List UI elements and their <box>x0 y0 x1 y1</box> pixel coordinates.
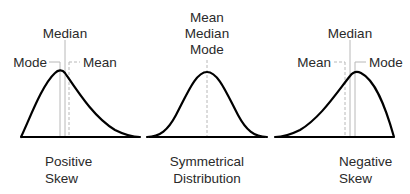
positive-skew-curve <box>21 70 140 137</box>
median-label: Median <box>185 26 229 41</box>
negative-skew-panel: Median Mean Mode Negative Skew <box>275 26 403 186</box>
mean-label: Mean <box>83 55 117 70</box>
skewness-diagram: Median Mode Mean Positive Skew Mean Medi… <box>0 0 410 194</box>
caption-line2: Skew <box>339 171 372 186</box>
caption-line2: Skew <box>45 171 78 186</box>
median-label: Median <box>328 26 372 41</box>
caption-line1: Positive <box>45 154 92 169</box>
median-label: Median <box>43 26 87 41</box>
symmetrical-panel: Mean Median Mode Symmetrical Distributio… <box>147 10 267 186</box>
mean-label: Mean <box>190 10 224 25</box>
mean-label: Mean <box>297 55 331 70</box>
caption-line1: Negative <box>339 154 392 169</box>
caption-line2: Distribution <box>173 171 241 186</box>
mode-label: Mode <box>369 55 403 70</box>
positive-skew-panel: Median Mode Mean Positive Skew <box>13 26 140 186</box>
caption-line1: Symmetrical <box>170 154 244 169</box>
negative-skew-curve <box>275 72 394 137</box>
mode-label: Mode <box>13 55 47 70</box>
mode-label: Mode <box>190 42 224 57</box>
